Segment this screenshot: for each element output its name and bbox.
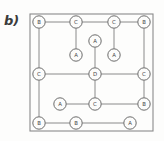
graph-node: A	[108, 49, 120, 61]
graph-node: B	[138, 98, 150, 110]
graph-node: A	[54, 98, 66, 110]
node-label: A	[74, 52, 78, 58]
graph-node: B	[33, 117, 45, 129]
graph-node: A	[89, 35, 101, 47]
graph-node: A	[70, 49, 82, 61]
graph-node: B	[70, 117, 82, 129]
node-label: C	[112, 19, 116, 25]
node-label: B	[142, 101, 146, 107]
node-label: B	[142, 19, 146, 25]
graph-node: B	[138, 16, 150, 28]
node-label: B	[74, 120, 78, 126]
graph-node: C	[89, 98, 101, 110]
node-label: C	[74, 19, 78, 25]
graph-node: A	[124, 117, 136, 129]
graph-node: C	[33, 68, 45, 80]
graph-node: C	[138, 68, 150, 80]
node-label: C	[93, 101, 97, 107]
node-label: A	[112, 52, 116, 58]
figure-panel: b) BCCBAAACDCACBBBA	[0, 0, 164, 141]
nodes-group: BCCBAAACDCACBBBA	[33, 16, 150, 129]
node-label: C	[37, 71, 41, 77]
node-label: C	[142, 71, 146, 77]
graph-diagram: BCCBAAACDCACBBBA	[0, 0, 164, 141]
node-label: D	[93, 71, 97, 77]
graph-node: C	[108, 16, 120, 28]
node-label: A	[93, 38, 97, 44]
node-label: A	[58, 101, 62, 107]
node-label: A	[128, 120, 132, 126]
graph-node: C	[70, 16, 82, 28]
node-label: B	[37, 19, 41, 25]
graph-node: D	[89, 68, 101, 80]
graph-node: B	[33, 16, 45, 28]
node-label: B	[37, 120, 41, 126]
